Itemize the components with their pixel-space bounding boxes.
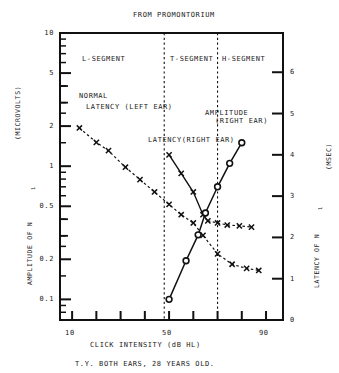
data-point-2-2 <box>195 232 201 238</box>
y-axis-left-label-subscript: 1 <box>30 186 36 190</box>
data-point-2-3 <box>203 210 209 216</box>
y-tick-label-right-3: 3 <box>290 192 295 200</box>
data-point-0-12 <box>244 266 249 271</box>
segment-label-l-segment: L-SEGMENT <box>82 55 125 63</box>
data-point-0-3 <box>123 165 128 170</box>
y-axis-right-label-unit: (MSEC) <box>325 143 333 170</box>
segment-label-h-segment: H-SEGMENT <box>222 55 265 63</box>
data-point-0-7 <box>179 212 184 217</box>
y-tick-label-left-0.5: 0.5 <box>0 202 54 210</box>
y-tick-label-right-0: 0 <box>290 316 295 324</box>
series-line-1-dashed <box>208 221 252 227</box>
data-point-0-1 <box>94 140 99 145</box>
normal-latency-label-line1: NORMAL <box>79 92 108 100</box>
y-tick-label-right-5: 5 <box>290 110 295 118</box>
figure-title: FROM PROMONTORIUM <box>133 11 215 19</box>
figure-caption: T.Y. BOTH EARS, 28 YEARS OLD. <box>75 360 215 368</box>
data-point-2-6 <box>239 140 245 146</box>
amplitude-label-line1: AMPLITUDE <box>205 109 248 117</box>
data-point-0-0 <box>77 125 82 130</box>
amplitude-label-line2: (RIGHT EAR) <box>215 117 268 125</box>
data-point-0-2 <box>106 148 111 153</box>
y-axis-left-label: AMPLITUDE OF N <box>26 222 34 285</box>
y-axis-right-label: LATENCY OF N <box>313 234 321 288</box>
normal-latency-label-line2: LATENCY (LEFT EAR) <box>86 103 173 111</box>
data-point-2-0 <box>166 296 172 302</box>
y-tick-label-right-2: 2 <box>290 233 295 241</box>
y-tick-label-right-4: 4 <box>290 151 295 159</box>
y-tick-label-left-10: 10 <box>0 29 54 37</box>
y-tick-label-right-6: 6 <box>290 68 295 76</box>
figure-container: FROM PROMONTORIUM CLICK INTENSITY (dB HL… <box>0 0 339 373</box>
segment-label-t-segment: T-SEGMENT <box>170 55 213 63</box>
data-point-0-4 <box>137 177 142 182</box>
y-tick-label-left-0.2: 0.2 <box>0 255 54 263</box>
data-point-0-8 <box>191 220 196 225</box>
data-point-2-4 <box>215 184 221 190</box>
plot-frame <box>60 33 283 320</box>
series-line-1-solid <box>169 155 208 221</box>
y-axis-left-label-unit: (MICROVOLTS) <box>14 86 22 140</box>
data-point-1-0 <box>166 152 171 157</box>
y-tick-label-left-0.1: 0.1 <box>0 295 54 303</box>
data-point-2-5 <box>227 160 233 166</box>
data-point-0-6 <box>166 202 171 207</box>
x-tick-label-10: 10 <box>65 329 75 337</box>
y-tick-label-left-5: 5 <box>0 69 54 77</box>
data-point-0-5 <box>152 189 157 194</box>
data-point-1-1 <box>179 171 184 176</box>
y-tick-label-right-1: 1 <box>290 275 295 283</box>
y-axis-right-label-subscript: 1 <box>317 206 323 210</box>
data-point-2-1 <box>183 258 189 264</box>
y-tick-label-left-2: 2 <box>0 122 54 130</box>
y-tick-label-left-1: 1 <box>0 162 54 170</box>
latency-right-ear-label: LATENCY(RIGHT EAR) <box>148 136 235 144</box>
x-axis-label: CLICK INTENSITY (dB HL) <box>90 341 201 349</box>
x-tick-label-90: 90 <box>259 329 269 337</box>
x-tick-label-50: 50 <box>162 329 172 337</box>
